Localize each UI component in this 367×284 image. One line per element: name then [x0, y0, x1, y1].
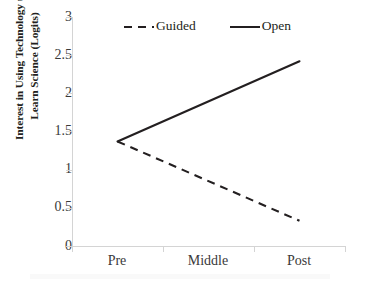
scan-artifact: [30, 274, 330, 279]
plot-area: [0, 0, 367, 284]
series-guided-line[interactable]: [118, 141, 300, 220]
series-open-line[interactable]: [118, 61, 300, 141]
interaction-line-chart: Interest in Using Technology to Learn Sc…: [0, 0, 367, 284]
series-guided[interactable]: [118, 141, 300, 220]
series-open[interactable]: [118, 61, 300, 141]
